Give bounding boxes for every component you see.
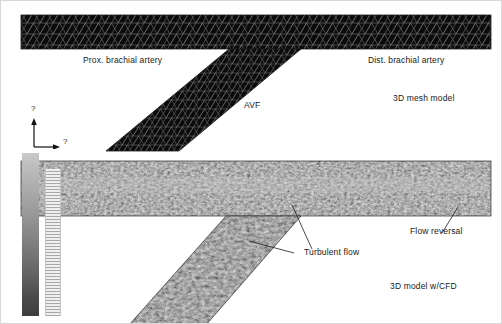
label-dist-brachial-artery: Dist. brachial artery (368, 55, 444, 65)
cfd-horizontal-artery (19, 159, 493, 218)
label-prox-brachial-artery: Prox. brachial artery (83, 55, 162, 65)
axis-label-x: ? (63, 137, 67, 146)
label-flow-reversal: Flow reversal (410, 226, 463, 236)
mesh-panel (1, 1, 502, 324)
label-avf: AVF (244, 100, 260, 110)
label-cfd-model-caption: 3D model w/CFD (390, 281, 457, 291)
label-turbulent-flow: Turbulent flow (304, 247, 359, 257)
cfd-avf-limb (101, 211, 331, 324)
colorbar-tick-strip (45, 169, 61, 316)
axis-indicator: ? ? (27, 113, 73, 149)
figure-root: ? ? Prox. brachial artery Dist. brachial… (0, 0, 502, 324)
mesh-horizontal-artery (21, 15, 491, 49)
label-mesh-model-caption: 3D mesh model (393, 93, 454, 103)
velocity-colorbar (22, 153, 39, 316)
axis-label-y: ? (31, 104, 35, 113)
